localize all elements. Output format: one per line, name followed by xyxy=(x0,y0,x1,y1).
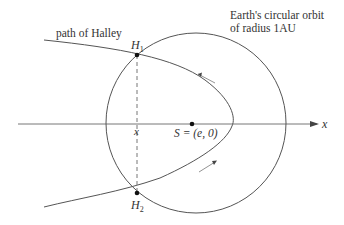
direction-arrowhead-lower-icon xyxy=(212,161,217,166)
earth-orbit-label-line2: of radius 1AU xyxy=(230,22,296,34)
halley-orbit-diagram: x Earth's circular orbit of radius 1AU p… xyxy=(0,0,344,225)
x-foot-label: x xyxy=(133,125,139,137)
h1-label: H1 xyxy=(130,38,144,54)
point-sun xyxy=(190,122,195,127)
axis-arrow-icon xyxy=(310,121,319,127)
sun-label: S = (e, 0) xyxy=(174,127,218,140)
direction-arrow-lower-icon xyxy=(199,162,215,172)
point-h1 xyxy=(135,53,140,58)
h2-label: H2 xyxy=(130,198,144,214)
x-axis xyxy=(18,121,319,127)
point-h2 xyxy=(135,191,140,196)
halley-path-label: path of Halley xyxy=(56,27,122,40)
earth-orbit-label-line1: Earth's circular orbit xyxy=(230,9,325,21)
x-axis-label: x xyxy=(321,117,328,131)
